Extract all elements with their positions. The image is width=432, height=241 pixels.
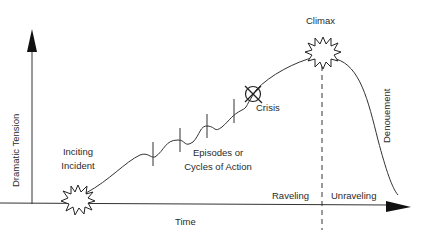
crisis-icon <box>245 86 262 103</box>
episodes-line-2: Cycles of Action <box>176 161 260 173</box>
inciting-incident-label: Inciting Incident <box>56 146 100 172</box>
climax-label: Climax <box>306 15 335 27</box>
unraveling-label: Unraveling <box>331 190 376 202</box>
episodes-label: Episodes or Cycles of Action <box>176 147 260 173</box>
crisis-label: Crisis <box>256 102 280 114</box>
inciting-line-2: Incident <box>56 160 100 172</box>
raveling-label: Raveling <box>272 190 309 202</box>
x-axis-label: Time <box>175 216 196 228</box>
denouement-label: Denouement <box>381 89 393 143</box>
y-axis <box>27 29 37 204</box>
y-axis-label: Dramatic Tension <box>10 114 22 187</box>
climax-starburst-icon <box>305 37 341 69</box>
x-axis-arrow-icon <box>386 201 411 212</box>
episodes-line-1: Episodes or <box>176 147 260 159</box>
x-axis <box>0 201 411 212</box>
dramatic-arc-diagram <box>0 0 432 241</box>
inciting-line-1: Inciting <box>56 146 100 158</box>
inciting-starburst-icon <box>61 185 95 215</box>
y-axis-arrow-icon <box>27 29 37 52</box>
